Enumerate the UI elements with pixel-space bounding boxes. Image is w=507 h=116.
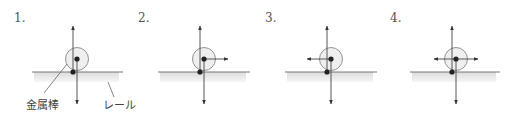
contact-point-dot xyxy=(197,69,202,74)
rod-label: 金属棒 xyxy=(26,98,59,112)
rail-shade xyxy=(160,72,246,82)
panel-1: 1. xyxy=(14,11,123,104)
diagram-canvas: 1.2.3.4. 金属棒 レール xyxy=(0,0,507,116)
panel-4: 4. xyxy=(390,11,500,104)
panels-group: 1.2.3.4. xyxy=(14,11,500,104)
center-of-mass-dot xyxy=(328,56,333,61)
contact-point-dot xyxy=(324,69,329,74)
panel-number: 3. xyxy=(265,11,276,25)
center-of-mass-dot xyxy=(201,56,206,61)
rail-callout: レール xyxy=(103,82,136,112)
panel-2: 2. xyxy=(138,11,250,104)
rod-callout: 金属棒 xyxy=(26,64,67,112)
rail-shade xyxy=(287,72,373,82)
contact-point-dot xyxy=(449,69,454,74)
panel-number: 1. xyxy=(14,11,25,25)
center-of-mass-dot xyxy=(453,56,458,61)
rail-label: レール xyxy=(103,99,136,112)
center-of-mass-dot xyxy=(74,56,79,61)
contact-point-dot xyxy=(70,69,75,74)
rail-shade xyxy=(34,72,119,82)
panel-3: 3. xyxy=(265,11,377,104)
rail-leader-line xyxy=(108,82,114,97)
force-diagram: 1.2.3.4. 金属棒 レール xyxy=(0,0,507,116)
panel-number: 4. xyxy=(390,11,401,25)
panel-number: 2. xyxy=(138,11,149,25)
